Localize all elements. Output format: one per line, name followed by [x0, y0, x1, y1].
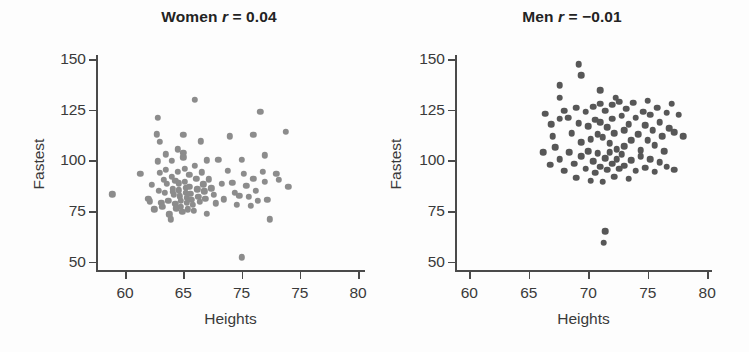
x-ticklabel-men-80: 80: [699, 284, 716, 302]
data-point: [633, 167, 640, 174]
plot-area-women: 5075100125150 6065757580 Fastest Heights: [96, 55, 365, 272]
data-point: [583, 108, 590, 115]
x-tick-men-65: [529, 272, 531, 279]
data-point: [565, 115, 572, 122]
y-ticklabel-women-50: 50: [69, 253, 86, 271]
data-point: [163, 151, 169, 157]
y-tick-men-125: [448, 110, 455, 112]
data-point: [556, 94, 563, 101]
y-ticklabel-women-75: 75: [69, 202, 86, 220]
panel-men: Men r = −0.01 5075100125150 6065707580 F…: [371, 0, 749, 352]
x-ticklabel-women-75: 75: [291, 284, 308, 302]
data-point: [193, 176, 199, 182]
data-point: [625, 121, 632, 128]
y-ticklabel-men-125: 125: [419, 101, 445, 119]
y-axis-line-women: [96, 55, 98, 272]
data-point: [594, 150, 601, 157]
data-point: [609, 116, 616, 123]
data-point: [599, 134, 606, 141]
plot-area-men: 5075100125150 6065707580 Fastest Heights: [455, 55, 712, 272]
data-point: [542, 111, 549, 118]
data-point: [266, 216, 272, 222]
y-tick-women-150: [89, 59, 96, 61]
data-point: [656, 119, 663, 126]
data-point: [575, 120, 582, 127]
data-point: [547, 161, 554, 168]
data-point: [663, 163, 670, 170]
data-point: [257, 109, 263, 115]
data-point: [604, 124, 611, 131]
data-point: [229, 180, 235, 186]
x-tick-men-60: [469, 272, 471, 279]
data-point: [186, 171, 192, 177]
data-point: [213, 200, 219, 206]
y-tick-women-75: [89, 211, 96, 213]
data-point: [206, 176, 212, 182]
data-point: [680, 133, 687, 140]
data-point: [167, 216, 173, 222]
data-point: [137, 171, 143, 177]
data-point: [262, 179, 268, 185]
y-axis-title-men: Fastest: [387, 138, 405, 189]
x-ticklabel-women-60: 60: [116, 284, 133, 302]
data-point: [155, 115, 161, 121]
data-point: [630, 99, 637, 106]
data-point: [549, 133, 556, 140]
x-tick-men-75: [648, 272, 650, 279]
x-tick-men-70: [588, 272, 590, 279]
data-point: [618, 151, 625, 158]
data-point: [616, 98, 623, 105]
data-point: [652, 168, 659, 175]
data-point: [656, 159, 663, 166]
data-point: [587, 177, 594, 184]
x-tick-women-60: [125, 272, 127, 279]
data-point: [573, 174, 580, 181]
x-tick-women-80: [358, 272, 360, 279]
data-point: [276, 177, 282, 183]
data-point: [252, 188, 258, 194]
data-point: [151, 206, 157, 212]
y-tick-men-100: [448, 160, 455, 162]
data-point: [649, 127, 656, 134]
data-point: [259, 168, 265, 174]
data-point: [671, 129, 678, 136]
panel-women-title-prefix: Women: [161, 8, 217, 25]
y-ticklabel-women-150: 150: [60, 50, 86, 68]
data-point: [585, 148, 592, 155]
data-point: [597, 87, 604, 94]
data-point: [180, 154, 186, 160]
data-point: [250, 132, 256, 138]
y-ticklabel-women-100: 100: [60, 151, 86, 169]
x-axis-title-men: Heights: [557, 310, 610, 328]
data-point: [668, 100, 675, 107]
data-point: [633, 115, 640, 122]
data-point: [224, 167, 230, 173]
data-point: [621, 162, 628, 169]
x-ticklabel-men-60: 60: [461, 284, 478, 302]
data-point: [210, 191, 216, 197]
data-point: [585, 123, 592, 130]
data-point: [606, 140, 613, 147]
data-point: [283, 129, 289, 135]
data-point: [604, 166, 611, 173]
x-ticklabel-men-75: 75: [639, 284, 656, 302]
data-point: [566, 149, 573, 156]
data-point: [165, 198, 171, 204]
data-point: [573, 104, 580, 111]
data-point: [203, 157, 209, 163]
data-point: [644, 97, 651, 104]
y-ticklabel-men-75: 75: [428, 202, 445, 220]
data-point: [635, 131, 642, 138]
data-point: [219, 181, 225, 187]
x-ticklabel-women-65: 65: [175, 284, 192, 302]
data-point: [583, 165, 590, 172]
panel-women-title: Women r = 0.04: [0, 8, 408, 26]
data-point: [234, 201, 240, 207]
data-point: [552, 144, 559, 151]
data-point: [162, 189, 168, 195]
data-point: [174, 168, 180, 174]
y-tick-women-100: [89, 160, 96, 162]
data-point: [199, 169, 205, 175]
data-point: [628, 137, 635, 144]
x-axis-line-women: [96, 270, 365, 272]
